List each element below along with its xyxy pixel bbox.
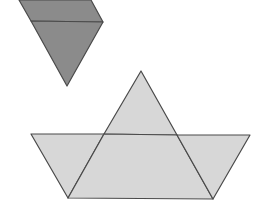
dark-parallelogram: [19, 0, 103, 22]
dark-triangle: [31, 21, 103, 86]
boat-figure: [31, 71, 250, 199]
tangram-diagram: [0, 0, 264, 209]
sail-triangle: [104, 71, 177, 135]
top-figure: [19, 0, 103, 86]
